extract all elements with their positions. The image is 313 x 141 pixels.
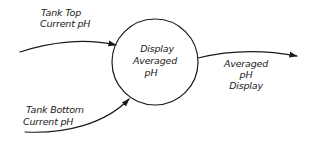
flow-averaged-display-label-line-1: Averaged (223, 58, 269, 69)
flow-averaged-display: Averaged pH Display (198, 52, 297, 91)
flow-averaged-display-label-line-2: pH (239, 69, 253, 80)
flow-tank-bottom-label-line-1: Tank Bottom (26, 104, 84, 115)
flow-tank-top-label-line-1: Tank Top (41, 7, 81, 18)
flow-averaged-display-label-line-3: Display (229, 80, 263, 91)
process-label-line-3: pH (144, 67, 158, 78)
flow-tank-bottom-label-line-2: Current pH (23, 116, 73, 127)
process-label-line-1: Display (140, 43, 174, 54)
data-flow-diagram: Display Averaged pH Tank Top Current pH … (0, 0, 313, 141)
process-label-line-2: Averaged (132, 55, 178, 66)
process-node: Display Averaged pH (112, 19, 198, 105)
flow-tank-bottom: Tank Bottom Current pH (23, 99, 129, 132)
flow-tank-top-label-line-2: Current pH (40, 18, 90, 29)
flow-tank-top: Tank Top Current pH (20, 7, 116, 52)
flow-tank-top-arrow (20, 41, 116, 52)
